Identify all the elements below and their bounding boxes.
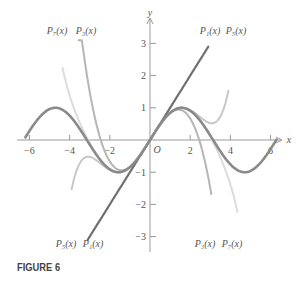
- x-tick-label: −4: [64, 145, 75, 156]
- series-label: P₃(x): [194, 238, 216, 250]
- y-tick-label: −2: [135, 199, 146, 210]
- series-label: P₅(x): [225, 25, 247, 37]
- origin-label: O: [153, 144, 160, 155]
- x-tick-label: 4: [228, 145, 233, 156]
- y-tick-label: 3: [141, 38, 146, 49]
- x-tick-label: 2: [188, 145, 193, 156]
- figure-caption: FIGURE 6: [17, 261, 60, 273]
- y-tick-label: −3: [135, 231, 146, 242]
- y-tick-label: 2: [141, 70, 146, 81]
- x-tick-label: −6: [24, 145, 35, 156]
- series-label: P₁(x): [82, 238, 104, 250]
- x-axis-label: x: [286, 134, 292, 145]
- y-axis-label: y: [147, 7, 153, 18]
- series-label: P₃(x): [75, 25, 97, 37]
- series-label: P₇(x): [46, 25, 68, 37]
- series-label: P₁(x): [199, 25, 221, 37]
- series-label: P₅(x): [55, 238, 77, 250]
- taylor-sine-plot: xyO−6−4−2246−3−2−1123P₇(x)P₃(x)P₁(x)P₅(x…: [0, 0, 301, 282]
- figure: xyO−6−4−2246−3−2−1123P₇(x)P₃(x)P₁(x)P₅(x…: [0, 0, 301, 282]
- series-label: P₇(x): [221, 238, 243, 250]
- y-tick-label: 1: [141, 102, 146, 113]
- y-tick-label: −1: [135, 167, 146, 178]
